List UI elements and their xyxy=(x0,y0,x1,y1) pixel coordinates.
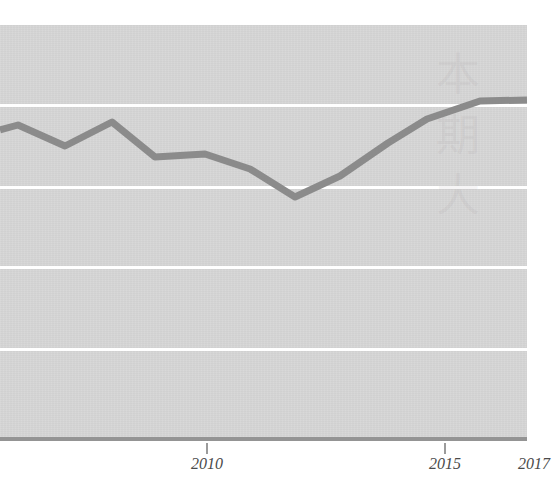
gridline-3 xyxy=(0,266,527,269)
x-tick-label-2015: 2015 xyxy=(429,455,461,473)
watermark-glyph-1: 本 xyxy=(436,53,482,97)
plot-area: 本 期 大 xyxy=(0,25,527,437)
watermark-text: 本 期 大 xyxy=(404,53,514,218)
watermark-glyph-2: 期 xyxy=(436,114,482,158)
x-axis-line xyxy=(0,437,527,441)
x-tick-2015 xyxy=(444,443,446,454)
x-tick-label-2017: 2017 xyxy=(518,455,550,473)
gridline-4 xyxy=(0,348,527,351)
gridline-2 xyxy=(0,186,527,189)
watermark-glyph-3: 大 xyxy=(436,174,482,218)
panel-texture xyxy=(0,25,527,437)
x-tick-2010 xyxy=(206,443,208,454)
x-tick-label-2010: 2010 xyxy=(191,455,223,473)
line-chart: 本 期 大 2010 2015 2017 xyxy=(0,0,557,478)
gridline-1 xyxy=(0,104,527,107)
